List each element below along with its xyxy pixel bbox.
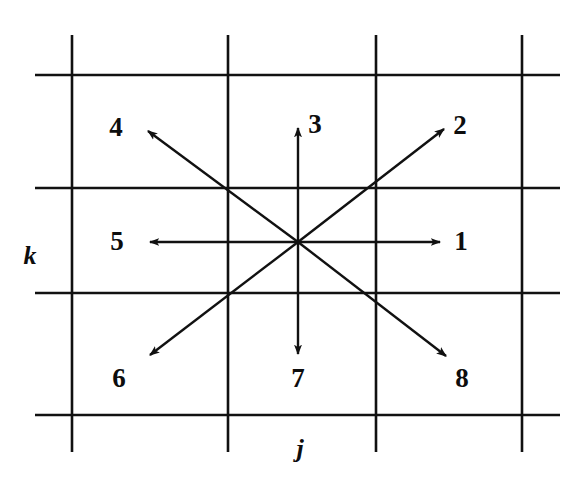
axis-label-k: k	[24, 243, 37, 269]
direction-label-4: 4	[109, 114, 123, 141]
axis-label-j: j	[296, 436, 303, 462]
direction-arrow-6	[150, 242, 298, 355]
direction-label-8: 8	[455, 365, 469, 392]
direction-label-1: 1	[454, 228, 468, 255]
direction-arrow-2	[298, 129, 444, 242]
lattice-diagram-canvas	[0, 0, 584, 483]
direction-arrow-8	[298, 242, 446, 356]
lattice-direction-figure: 12345678 kj	[0, 0, 584, 483]
direction-label-7: 7	[291, 365, 305, 392]
direction-label-5: 5	[110, 228, 124, 255]
direction-arrows	[148, 128, 446, 356]
direction-label-2: 2	[453, 112, 467, 139]
direction-label-3: 3	[308, 111, 322, 138]
direction-label-6: 6	[112, 365, 126, 392]
direction-arrow-4	[148, 131, 298, 242]
